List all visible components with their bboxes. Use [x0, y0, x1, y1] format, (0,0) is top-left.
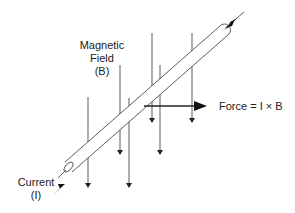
force-arrow-icon	[194, 101, 207, 111]
label-line: Field	[76, 52, 128, 65]
label-line: Magnetic	[76, 39, 128, 52]
label-line: (B)	[76, 65, 128, 78]
lorentz-force-diagram: Magnetic Field (B) Force = I × B Current…	[0, 0, 295, 213]
current-label: Current (I)	[13, 176, 59, 202]
magnetic-field-label: Magnetic Field (B)	[76, 39, 128, 78]
label-line: Current	[13, 176, 59, 189]
force-arrow	[144, 101, 207, 111]
label-line: (I)	[13, 189, 59, 202]
force-label: Force = I × B	[219, 100, 283, 113]
